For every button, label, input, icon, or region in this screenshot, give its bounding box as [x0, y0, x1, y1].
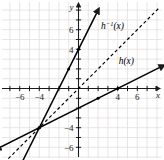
y-tick-label: −6 [64, 143, 74, 153]
curve-label: h−1(x) [101, 19, 124, 32]
x-tick-label: −6 [15, 92, 25, 102]
y-tick-label: −4 [64, 123, 74, 133]
x-tick-label: −4 [35, 92, 45, 102]
curve-label: h(x) [119, 56, 134, 67]
y-tick-label: 4 [69, 45, 74, 55]
y-tick-label: 6 [69, 25, 74, 35]
data-point [97, 97, 100, 100]
x-tick-label: 4 [115, 92, 120, 102]
data-point [116, 87, 119, 90]
y-axis-label: y [69, 2, 74, 12]
x-axis-label: x [155, 90, 160, 100]
x-tick-label: 6 [135, 92, 140, 102]
data-point [67, 67, 70, 70]
function-line [0, 67, 160, 147]
coordinate-plane: −6−44664−4−6xyh(x)h−1(x) [0, 0, 164, 160]
function-line [19, 13, 97, 160]
data-point [77, 48, 80, 51]
graph-figure: −6−44664−4−6xyh(x)h−1(x) [0, 0, 164, 160]
